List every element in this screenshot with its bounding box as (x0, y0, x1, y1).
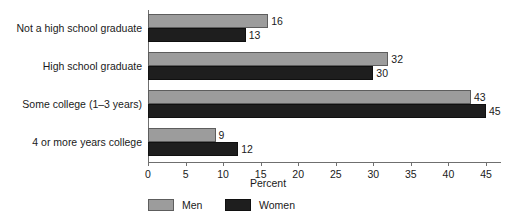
legend-swatch-men-icon (148, 199, 174, 211)
x-axis-title-text: Percent (250, 177, 286, 189)
bar-men (148, 14, 268, 28)
bar-value-men: 16 (271, 14, 283, 28)
bar-value-women: 13 (249, 28, 261, 42)
plot-area: 16 13 32 30 43 45 9 12 05101520253035404… (148, 10, 501, 162)
bar-value-women: 45 (489, 104, 501, 118)
bar-value-women: 30 (376, 66, 388, 80)
x-axis-tick-mark (261, 162, 262, 166)
bar-women (148, 104, 486, 118)
x-axis-tick-mark (486, 162, 487, 166)
bar-value-men: 32 (391, 52, 403, 66)
bar-value-women: 12 (241, 142, 253, 156)
category-label: Some college (1–3 years) (0, 98, 142, 110)
category-label: Not a high school graduate (0, 22, 142, 34)
bar-women (148, 142, 238, 156)
legend-swatch-women-icon (225, 199, 251, 211)
bar-value-men: 9 (219, 128, 225, 142)
x-axis-tick-mark (148, 162, 149, 166)
bar-men (148, 128, 216, 142)
x-axis-title: Percent (0, 177, 522, 189)
bar-chart: Not a high school graduate High school g… (0, 0, 522, 223)
bar-men (148, 90, 471, 104)
x-axis-tick-mark (298, 162, 299, 166)
bar-men (148, 52, 388, 66)
bar-women (148, 66, 373, 80)
bar-value-men: 43 (474, 90, 486, 104)
x-axis-tick-mark (373, 162, 374, 166)
x-axis-tick-mark (186, 162, 187, 166)
category-label: 4 or more years college (0, 136, 142, 148)
legend-label-women: Women (259, 198, 295, 212)
x-axis-tick-mark (411, 162, 412, 166)
category-label: High school graduate (0, 60, 142, 72)
x-axis-tick-mark (336, 162, 337, 166)
legend-label-men: Men (182, 198, 202, 212)
bar-women (148, 28, 246, 42)
x-axis-tick-mark (448, 162, 449, 166)
x-axis-tick-mark (223, 162, 224, 166)
